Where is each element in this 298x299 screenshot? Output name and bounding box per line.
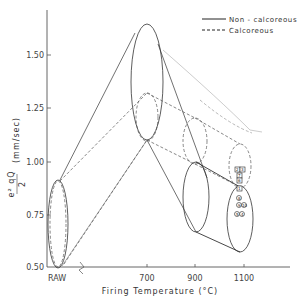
legend: Non - calcoreous Calcoreous [202,16,297,35]
chart: 1.50 1.25 1.00 0.75 0.50 e² qQ 2 (mm/sec… [0,0,298,299]
y-tick-label: 1.25 [26,104,44,113]
y-title-unit: (mm/sec) [12,117,21,163]
y-axis-title: e² qQ 2 (mm/sec) [7,117,27,198]
x-axis-title: Firing Temperature (°C) [102,287,219,296]
series-non-calcareous [48,24,262,268]
y-axis: 1.50 1.25 1.00 0.75 0.50 [26,10,51,272]
x-tick-label: 700 [139,274,154,283]
sample-markers: 2 3 7 6 1 8 9 10 5 4 [235,167,248,217]
y-title-denominator: 2 [18,181,27,187]
x-tick-label: 1100 [234,274,254,283]
svg-text:10: 10 [242,203,248,208]
y-title-numerator: e² qQ [7,170,16,197]
x-tick-label: RAW [48,274,66,283]
series-calcareous [50,93,252,267]
y-tick-label: 0.50 [26,263,44,272]
y-tick-label: 0.75 [26,211,44,220]
y-tick-label: 1.00 [26,158,44,167]
legend-label-non-calcareous: Non - calcoreous [229,16,297,24]
legend-label-calcareous: Calcoreous [229,27,274,35]
x-tick-label: 900 [187,274,202,283]
y-tick-label: 1.50 [26,51,44,60]
x-axis: RAW 700 900 1100 Firing Temperature (°C) [47,262,290,296]
